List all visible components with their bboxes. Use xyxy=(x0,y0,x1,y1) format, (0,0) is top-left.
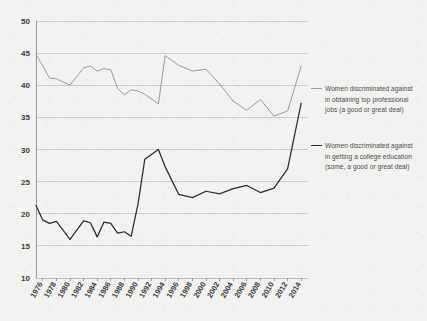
y-tick-label-10: 10 xyxy=(21,274,30,283)
y-tick-label-25: 25 xyxy=(21,178,30,187)
y-tick-label-30: 30 xyxy=(21,146,30,155)
chart-page: 1015202530354045501976197819801982198419… xyxy=(0,0,427,321)
x-tick-label-1984: 1984 xyxy=(83,280,100,300)
x-tick-label-2014: 2014 xyxy=(287,280,304,300)
y-tick-label-15: 15 xyxy=(21,242,30,251)
x-tick-label-2012: 2012 xyxy=(273,281,289,300)
x-tick-label-1988: 1988 xyxy=(110,281,126,300)
legend-label-college-education: Women discriminated against in getting a… xyxy=(325,141,417,173)
legend-swatch-college-education xyxy=(311,145,322,147)
x-tick-label-1992: 1992 xyxy=(137,281,153,300)
legend-label-professional-jobs: Women discriminated against in obtaining… xyxy=(325,84,417,116)
x-tick-label-2008: 2008 xyxy=(246,281,262,300)
x-tick-label-1990: 1990 xyxy=(124,281,140,300)
x-tick-label-1982: 1982 xyxy=(69,281,85,300)
x-tick-label-2002: 2002 xyxy=(205,281,221,300)
y-tick-label-45: 45 xyxy=(21,49,30,58)
x-tick-label-1978: 1978 xyxy=(42,281,58,300)
legend-swatch-professional-jobs xyxy=(311,88,322,90)
series-line-college-education xyxy=(36,103,301,239)
x-tick-label-1980: 1980 xyxy=(56,281,72,300)
x-tick-label-1994: 1994 xyxy=(151,280,168,300)
y-tick-label-35: 35 xyxy=(21,113,30,122)
y-tick-label-40: 40 xyxy=(21,81,30,90)
y-tick-label-50: 50 xyxy=(21,17,30,26)
x-tick-label-1998: 1998 xyxy=(178,281,194,300)
x-tick-label-1986: 1986 xyxy=(96,281,112,300)
y-tick-label-20: 20 xyxy=(21,210,30,219)
x-tick-label-2000: 2000 xyxy=(192,281,208,300)
x-tick-label-1976: 1976 xyxy=(28,281,44,300)
x-tick-label-1996: 1996 xyxy=(164,281,180,300)
x-tick-label-2010: 2010 xyxy=(260,281,276,300)
x-tick-label-2004: 2004 xyxy=(219,280,236,300)
x-tick-label-2006: 2006 xyxy=(232,281,248,300)
